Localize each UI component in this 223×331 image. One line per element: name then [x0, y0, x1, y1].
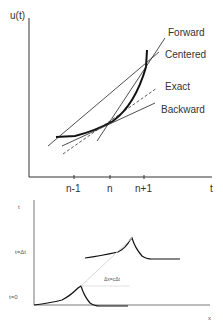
bottom-plot: t x t=Δt t=0 Δx=cΔt	[9, 200, 211, 321]
tick-label-n-plus-1: n+1	[135, 183, 152, 194]
centered-line	[48, 52, 159, 146]
top-plot: u(t) t n-1 n n+1 Forward Centered Exact …	[10, 10, 213, 194]
level-label-t-delta: t=Δt	[15, 249, 26, 255]
top-x-axis-label: t	[210, 183, 213, 194]
tick-label-n-minus-1: n-1	[66, 183, 81, 194]
backward-line	[62, 103, 155, 146]
legend-backward: Backward	[161, 104, 205, 115]
exact-function-curve	[56, 50, 147, 137]
level-label-t-zero: t=0	[9, 294, 18, 300]
top-y-axis-label: u(t)	[10, 10, 25, 21]
finite-difference-diagram: u(t) t n-1 n n+1 Forward Centered Exact …	[0, 0, 223, 331]
bottom-x-axis-label: x	[208, 315, 211, 321]
bottom-y-axis-label: t	[18, 204, 20, 210]
legend-exact: Exact	[165, 81, 190, 92]
tick-label-n: n	[107, 183, 113, 194]
wave-pulse-t0	[34, 286, 128, 306]
legend-centered: Centered	[165, 49, 206, 60]
wave-pulse-t-delta	[85, 238, 180, 259]
legend-forward: Forward	[168, 27, 205, 38]
delta-x-annotation: Δx=cΔt	[104, 276, 121, 282]
